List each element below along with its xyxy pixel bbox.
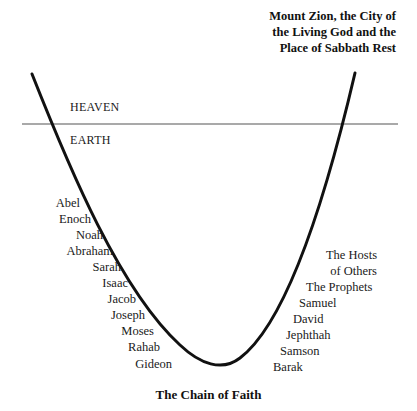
name-isaac: Isaac — [102, 276, 128, 290]
name-joseph: Joseph — [111, 308, 145, 322]
title-line-3: Place of Sabbath Rest — [269, 40, 396, 56]
name-abel: Abel — [56, 196, 80, 210]
name-rahab: Rahab — [128, 340, 160, 354]
name-samuel: Samuel — [299, 296, 337, 310]
earth-label: EARTH — [70, 133, 111, 148]
mount-zion-title: Mount Zion, the City of the Living God a… — [269, 8, 396, 56]
title-line-2: the Living God and the — [269, 24, 396, 40]
name-enoch: Enoch — [59, 212, 91, 226]
name-noah: Noah — [76, 228, 103, 242]
name-jephthah: Jephthah — [286, 328, 330, 342]
title-line-1: Mount Zion, the City of — [269, 8, 396, 24]
heaven-label: HEAVEN — [70, 100, 120, 115]
name-barak: Barak — [273, 360, 303, 374]
name-the-hosts: The Hosts — [326, 248, 377, 262]
name-samson: Samson — [280, 344, 320, 358]
name-the-prophets: The Prophets — [306, 280, 372, 294]
name-of-others: of Others — [330, 264, 377, 278]
name-jacob: Jacob — [108, 292, 136, 306]
diagram-caption: The Chain of Faith — [0, 387, 417, 403]
name-gideon: Gideon — [135, 357, 172, 371]
name-moses: Moses — [121, 324, 154, 338]
name-abraham: Abraham — [66, 244, 113, 258]
name-sarah: Sarah — [93, 260, 121, 274]
name-david: David — [293, 312, 324, 326]
